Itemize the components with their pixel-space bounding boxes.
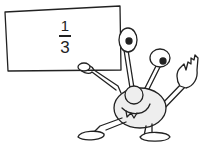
nose [125,86,143,104]
cartoon-scene [0,0,203,146]
fraction-bar [59,35,71,37]
fraction-label: 1 3 [53,18,77,56]
right-foot [140,132,170,141]
left-foot [78,131,104,140]
right-eye [150,49,170,67]
waving-hand [177,55,198,88]
eye-stalk-left [124,50,134,88]
fraction-numerator: 1 [53,18,77,33]
fraction-denominator: 3 [53,39,77,56]
